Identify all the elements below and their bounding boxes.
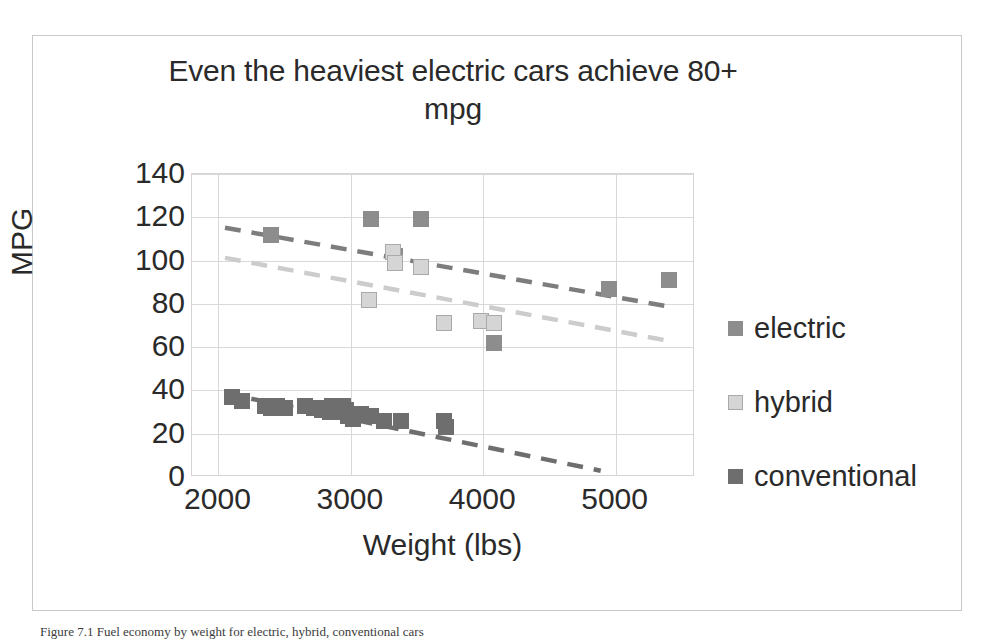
x-tick-label: 4000: [412, 484, 552, 514]
data-point-conventional: [438, 419, 454, 435]
data-point-hybrid: [436, 315, 452, 331]
data-point-hybrid: [413, 259, 429, 275]
legend-label: electric: [754, 313, 846, 343]
data-point-electric: [486, 335, 502, 351]
data-point-conventional: [234, 393, 250, 409]
x-tick-label: 2000: [147, 484, 287, 514]
y-axis-label: MPG: [5, 208, 39, 276]
legend-item-conventional[interactable]: conventional: [728, 439, 958, 513]
y-tick-label: 60: [95, 331, 185, 361]
data-point-conventional: [376, 413, 392, 429]
legend-swatch-icon: [728, 395, 743, 410]
legend-swatch-icon: [728, 321, 743, 336]
legend-label: conventional: [754, 461, 917, 491]
data-point-electric: [601, 281, 617, 297]
y-tick-label: 100: [95, 245, 185, 275]
legend-label: hybrid: [754, 387, 833, 417]
data-point-conventional: [393, 413, 409, 429]
x-axis-tick-labels: 2000300040005000: [191, 484, 694, 520]
y-tick-label: 40: [95, 374, 185, 404]
x-tick-label: 3000: [280, 484, 420, 514]
plot-area: [191, 173, 694, 476]
y-tick-label: 20: [95, 418, 185, 448]
data-point-conventional: [277, 400, 293, 416]
x-axis-label: Weight (lbs): [191, 528, 694, 562]
legend-swatch-icon: [728, 469, 743, 484]
data-point-hybrid: [387, 255, 403, 271]
data-point-electric: [413, 211, 429, 227]
y-tick-label: 120: [95, 201, 185, 231]
y-tick-label: 140: [95, 158, 185, 188]
data-point-hybrid: [486, 315, 502, 331]
data-point-hybrid: [361, 292, 377, 308]
data-point-electric: [363, 211, 379, 227]
data-point-electric: [661, 272, 677, 288]
chart-legend: electrichybridconventional: [728, 291, 958, 513]
y-tick-label: 80: [95, 288, 185, 318]
chart-title: Even the heaviest electric cars achieve …: [153, 52, 753, 128]
x-tick-label: 5000: [545, 484, 685, 514]
legend-item-hybrid[interactable]: hybrid: [728, 365, 958, 439]
legend-item-electric[interactable]: electric: [728, 291, 958, 365]
figure-frame: Even the heaviest electric cars achieve …: [32, 35, 962, 611]
figure-caption: Figure 7.1 Fuel economy by weight for el…: [40, 624, 424, 640]
data-point-electric: [263, 227, 279, 243]
y-axis-tick-labels: 020406080100120140: [85, 173, 185, 476]
